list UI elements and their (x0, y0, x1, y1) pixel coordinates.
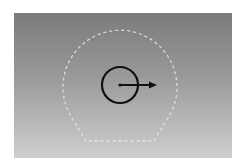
diagram-canvas (0, 0, 242, 164)
